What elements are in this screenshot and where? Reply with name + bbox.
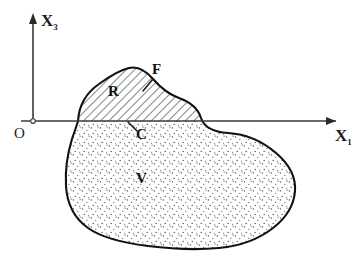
origin-label: O (14, 125, 25, 141)
annotation-label-c: C (136, 126, 147, 142)
axis-label-x3: X3 (41, 11, 58, 32)
diagram-canvas: X3 X1 O R V F C (0, 0, 362, 266)
axis-label-x1-base: X (335, 126, 348, 145)
axis-label-x3-base: X (41, 11, 54, 30)
right-arrow-head-icon (326, 117, 336, 125)
axis-label-x3-subscript: 3 (53, 22, 58, 32)
figure-container: X3 X1 O R V F C (0, 0, 362, 266)
region-label-v: V (136, 170, 147, 186)
axis-label-x1-subscript: 1 (347, 137, 352, 147)
axis-label-x1: X1 (335, 126, 352, 147)
origin-marker-icon (31, 119, 36, 124)
region-volume-fill (0, 0, 362, 266)
annotation-label-f: F (152, 61, 161, 77)
up-arrow-head-icon (29, 13, 37, 24)
region-label-r: R (108, 83, 119, 99)
